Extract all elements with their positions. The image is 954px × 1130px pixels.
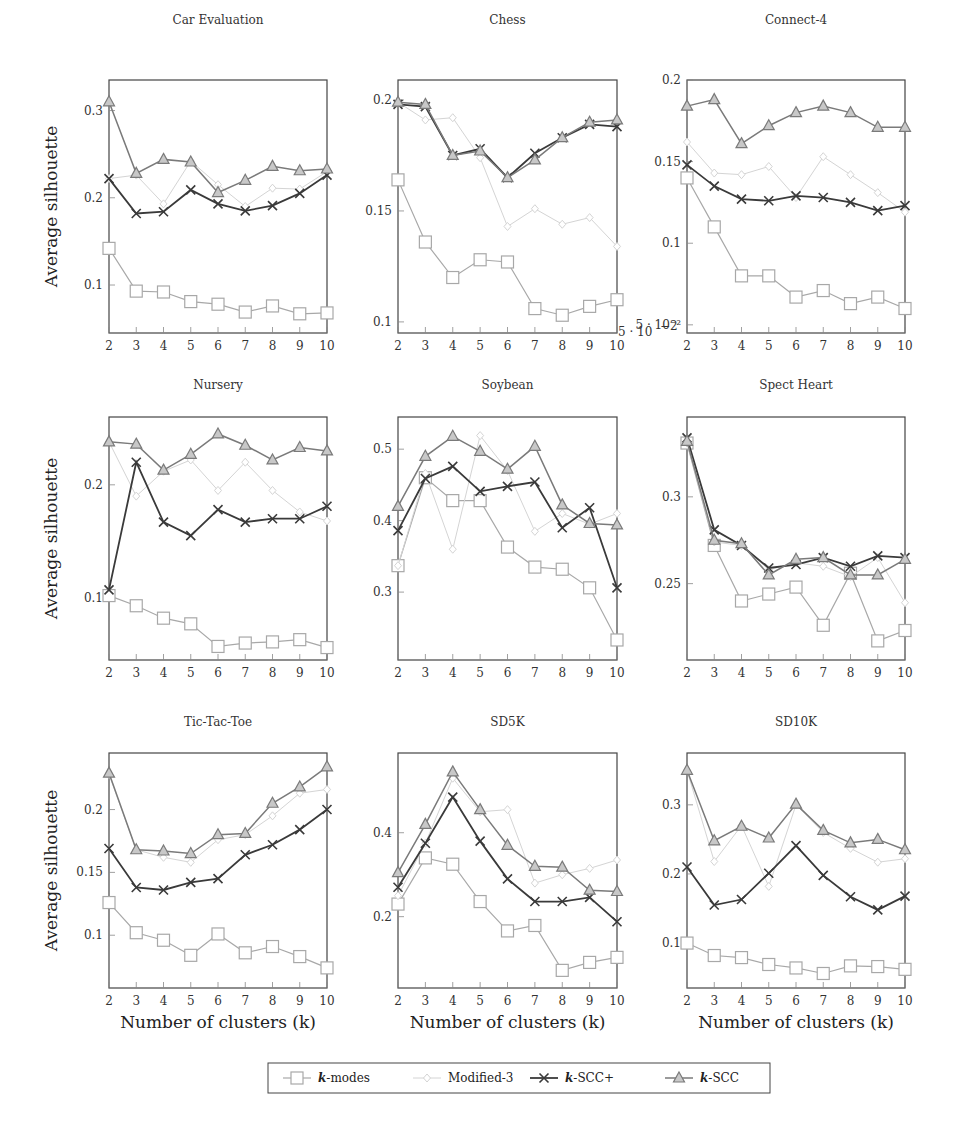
data-point-marker — [817, 619, 829, 631]
series-line — [109, 774, 327, 862]
subplot-connect-4: Connect-423456789105 · 10⁻²0.10.150.2 — [636, 13, 913, 353]
x-tick-label: 9 — [874, 994, 882, 1008]
figure: Car Evaluation23456789100.10.20.3Chess23… — [0, 0, 954, 1130]
data-point-marker — [902, 208, 909, 216]
data-point-marker — [792, 841, 801, 850]
data-point-marker — [614, 509, 621, 517]
data-point-marker — [736, 595, 748, 607]
y-tick-label: 0.4 — [373, 826, 392, 840]
data-point-marker — [294, 308, 306, 320]
data-point-marker — [269, 812, 276, 820]
subplot-title: Chess — [489, 13, 525, 27]
subplot-title: Car Evaluation — [173, 13, 264, 27]
data-point-marker — [763, 120, 774, 130]
x-tick-label: 4 — [738, 339, 746, 353]
data-point-marker — [558, 523, 567, 532]
y-tick-label: 0.3 — [662, 490, 681, 504]
x-tick-label: 4 — [738, 994, 746, 1008]
data-point-marker — [529, 303, 541, 315]
data-point-marker — [529, 919, 541, 931]
y-axis-label: Average silhouette — [41, 790, 61, 952]
data-point-marker — [764, 869, 773, 878]
data-point-marker — [709, 835, 720, 845]
legend-item-k-modes: k-modes — [283, 1071, 370, 1085]
x-tick-label: 7 — [241, 666, 249, 680]
data-point-marker — [899, 963, 911, 975]
y-tick-label: 0.2 — [84, 803, 103, 817]
x-tick-label: 10 — [609, 666, 624, 680]
data-point-marker — [611, 634, 623, 646]
data-point-marker — [531, 527, 538, 535]
series-k-scc- — [394, 100, 622, 182]
data-point-marker — [504, 806, 511, 814]
plot-area — [109, 417, 327, 660]
data-point-marker — [559, 509, 566, 517]
data-point-marker — [322, 761, 333, 771]
x-tick-label: 4 — [160, 994, 168, 1008]
data-point-marker — [267, 300, 279, 312]
data-point-marker — [709, 94, 720, 104]
data-point-marker — [449, 545, 456, 553]
data-point-marker — [187, 858, 194, 866]
data-point-marker — [267, 797, 278, 807]
x-tick-label: 9 — [586, 666, 594, 680]
subplot-title: Soybean — [482, 378, 534, 392]
data-point-marker — [185, 618, 197, 630]
data-point-marker — [763, 959, 775, 971]
x-tick-label: 5 — [187, 994, 195, 1008]
x-tick-label: 3 — [422, 994, 430, 1008]
data-point-marker — [419, 852, 431, 864]
x-tick-label: 10 — [609, 339, 624, 353]
x-tick-label: 6 — [792, 339, 800, 353]
y-axis-label: Average silhouette — [41, 126, 61, 288]
x-tick-label: 7 — [819, 994, 827, 1008]
x-tick-label: 6 — [504, 339, 512, 353]
data-point-marker — [422, 116, 429, 124]
data-point-marker — [736, 270, 748, 282]
x-tick-label: 7 — [531, 994, 539, 1008]
data-point-marker — [817, 285, 829, 297]
x-tick-label: 8 — [558, 994, 566, 1008]
data-point-marker — [738, 171, 745, 179]
y-tick-label: 0.1 — [662, 936, 681, 950]
x-tick-label: 2 — [105, 994, 113, 1008]
series-line — [398, 858, 617, 970]
x-tick-label: 6 — [214, 666, 222, 680]
data-point-marker — [103, 242, 115, 254]
x-tick-label: 8 — [269, 994, 277, 1008]
plot-area — [398, 753, 617, 988]
x-tick-label: 3 — [422, 339, 430, 353]
x-tick-label: 4 — [449, 666, 457, 680]
data-point-marker — [104, 767, 115, 777]
series-modified-3 — [106, 157, 331, 210]
data-point-marker — [559, 220, 566, 228]
data-point-marker — [131, 167, 142, 177]
data-point-marker — [393, 867, 404, 877]
data-point-marker — [296, 508, 303, 516]
y-tick-label: 0.2 — [84, 478, 103, 492]
data-point-marker — [899, 303, 911, 315]
data-point-marker — [708, 221, 720, 233]
data-point-marker — [682, 764, 693, 774]
y-tick-label: 0.3 — [662, 798, 681, 812]
legend: k-modesModified-3k-SCC+k-SCC — [268, 1063, 770, 1093]
plot-area — [687, 417, 905, 660]
data-point-marker — [902, 599, 909, 607]
data-point-marker — [159, 518, 168, 527]
data-point-marker — [556, 309, 568, 321]
x-tick-label: 8 — [847, 994, 855, 1008]
x-tick-label: 2 — [394, 339, 402, 353]
x-tick-label: 5 — [476, 994, 484, 1008]
x-tick-label: 10 — [319, 339, 334, 353]
subplot-chess: Chess23456789100.10.150.2 — [365, 13, 624, 353]
data-point-marker — [531, 879, 538, 887]
data-point-marker — [846, 892, 855, 901]
legend-label: k-SCC — [700, 1071, 739, 1085]
x-tick-label: 9 — [586, 339, 594, 353]
data-point-marker — [393, 500, 404, 510]
series-line — [687, 770, 905, 849]
data-point-marker — [212, 298, 224, 310]
data-point-marker — [295, 825, 304, 834]
legend-label: Modified-3 — [448, 1071, 514, 1085]
data-point-marker — [239, 637, 251, 649]
